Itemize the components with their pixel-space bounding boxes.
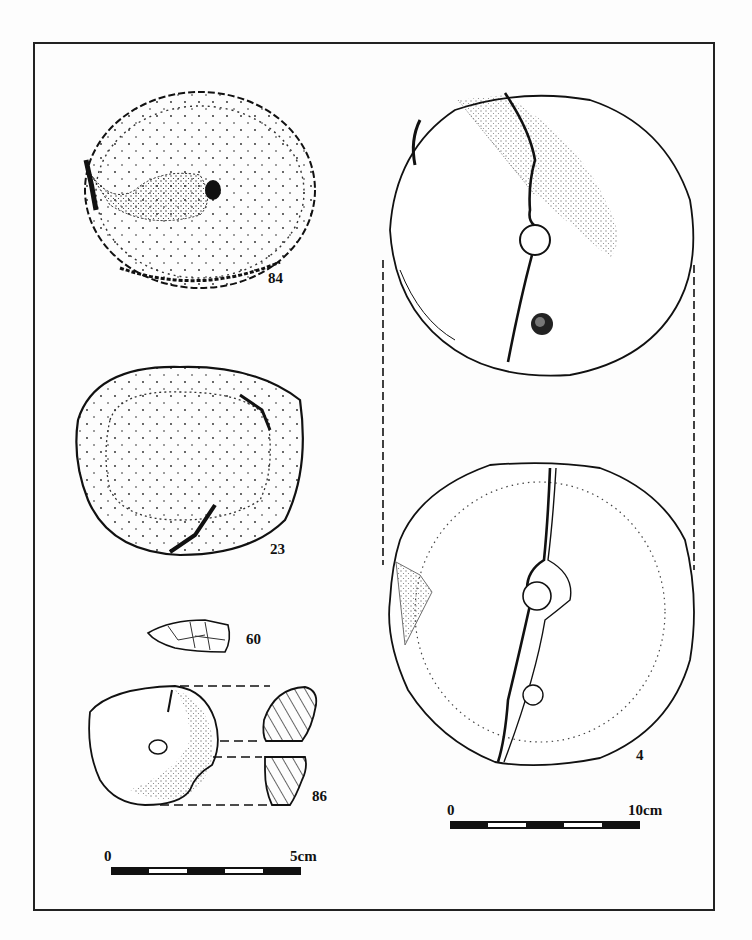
artifact-23-drawing — [76, 367, 302, 555]
scale-bar-large — [450, 821, 640, 829]
artifact-label-86: 86 — [312, 788, 327, 805]
artifact-label-60: 60 — [246, 631, 261, 648]
artifact-4-bottom-view — [389, 463, 694, 765]
artifact-60-drawing — [148, 620, 229, 652]
artifact-label-23: 23 — [270, 541, 285, 558]
artifact-4-top-view — [390, 93, 693, 376]
artifact-label-4: 4 — [636, 747, 644, 764]
scale-large-start: 0 — [447, 802, 455, 819]
scale-large-end: 10cm — [628, 802, 662, 819]
scale-bar-small — [111, 867, 301, 875]
scale-small-start: 0 — [104, 848, 112, 865]
artifact-84-drawing — [85, 92, 315, 288]
plate-drawing — [0, 0, 752, 940]
scale-small-end: 5cm — [290, 848, 317, 865]
artifact-86-drawing — [89, 686, 316, 805]
artifact-label-84: 84 — [268, 270, 283, 287]
